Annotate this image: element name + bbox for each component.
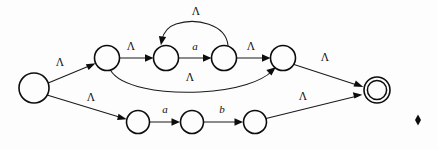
transitions-layer: [47, 22, 363, 126]
edge-start-to-upper-arrowhead: [86, 63, 96, 70]
nfa-diagram-canvas: Λ Λ Λ a Λ Λ Λ Λ a b Λ: [0, 0, 438, 150]
edge-loop-exit-to-join: [237, 54, 271, 61]
edge-loop-exit-to-join-arrowhead: [262, 54, 271, 61]
state-lower-branch-exit[interactable]: [244, 111, 267, 134]
label-edge-start-to-lower: Λ: [87, 91, 96, 103]
edge-start-to-lower-line: [47, 95, 123, 118]
edge-lower-to-accept-arrowhead: [353, 92, 363, 98]
state-loop-exit-state[interactable]: [212, 46, 237, 71]
edge-lower-to-accept: [266, 92, 362, 118]
label-edge-bypass-upper: Λ: [186, 71, 195, 83]
edge-lower-b: [204, 118, 244, 125]
state-upper-branch-entry[interactable]: [95, 46, 120, 71]
state-loop-entry-state[interactable]: [154, 46, 179, 71]
label-edge-loop-back: Λ: [192, 5, 201, 17]
state-lower-branch-entry[interactable]: [127, 111, 150, 134]
edge-join-to-accept-line: [294, 65, 359, 86]
edge-upper-to-loop-entry-arrowhead: [145, 54, 154, 61]
edge-join-to-accept-arrowhead: [354, 81, 364, 87]
edge-lower-a-arrowhead: [172, 118, 181, 125]
edge-loop-entry-to-exit: [179, 54, 212, 61]
edge-start-to-lower-arrowhead: [117, 114, 127, 120]
state-start-state[interactable]: [19, 73, 49, 103]
label-edge-loop-entry-to-exit: a: [192, 40, 198, 52]
edge-lower-a: [150, 118, 181, 125]
edge-start-to-upper-line: [48, 65, 91, 83]
page-corner-marker-icon: [415, 115, 421, 126]
label-edge-upper-to-loop-entry: Λ: [127, 40, 136, 52]
state-accept-state[interactable]: [364, 77, 390, 103]
edge-lower-to-accept-line: [266, 96, 358, 119]
edge-loop-back-arrowhead: [159, 36, 166, 45]
decorations-layer: [415, 115, 421, 126]
edge-join-to-accept: [294, 65, 363, 88]
edge-loop-entry-to-exit-arrowhead: [203, 54, 212, 61]
edge-lower-b-arrowhead: [235, 118, 244, 125]
label-edge-lower-to-accept: Λ: [299, 90, 308, 102]
state-lower-middle-state[interactable]: [181, 111, 204, 134]
nfa-diagram-figure: Λ Λ Λ a Λ Λ Λ Λ a b Λ: [0, 0, 438, 150]
state-upper-branch-join[interactable]: [271, 46, 296, 71]
label-edge-join-to-accept: Λ: [321, 51, 330, 63]
label-edge-start-to-upper: Λ: [56, 56, 65, 68]
edge-upper-to-loop-entry: [120, 54, 154, 61]
label-edge-lower-a: a: [162, 103, 168, 115]
label-edge-lower-b: b: [219, 103, 225, 115]
label-edge-loop-exit-to-join: Λ: [247, 40, 256, 52]
